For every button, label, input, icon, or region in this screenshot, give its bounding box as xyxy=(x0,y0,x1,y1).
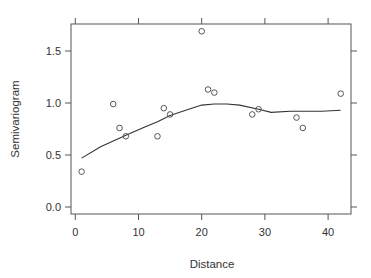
data-point xyxy=(161,105,167,111)
semivariogram-chart: 010203040 0.00.51.01.5 Distance Semivari… xyxy=(0,0,371,278)
data-point xyxy=(199,28,205,34)
y-tick-label: 1.0 xyxy=(46,97,61,109)
y-axis: 0.00.51.01.5 xyxy=(46,45,357,213)
x-tick-label: 10 xyxy=(132,226,144,238)
y-axis-title: Semivariogram xyxy=(9,80,21,157)
x-tick-label: 20 xyxy=(196,226,208,238)
data-point xyxy=(117,125,123,131)
data-points xyxy=(79,28,344,174)
x-axis-title: Distance xyxy=(190,258,235,270)
x-tick-label: 30 xyxy=(259,226,271,238)
data-point xyxy=(294,115,300,121)
y-tick-label: 0.0 xyxy=(46,201,61,213)
data-point xyxy=(300,125,306,131)
data-point xyxy=(212,90,218,96)
data-point xyxy=(79,169,85,175)
y-tick-label: 1.5 xyxy=(46,45,61,57)
data-point xyxy=(249,112,255,118)
data-point xyxy=(338,91,344,97)
plot-frame xyxy=(71,24,351,214)
data-point xyxy=(110,101,116,107)
data-point xyxy=(205,87,211,93)
x-tick-label: 0 xyxy=(72,226,78,238)
x-axis: 010203040 xyxy=(72,18,334,238)
y-tick-label: 0.5 xyxy=(46,149,61,161)
data-point xyxy=(155,133,161,139)
x-tick-label: 40 xyxy=(322,226,334,238)
